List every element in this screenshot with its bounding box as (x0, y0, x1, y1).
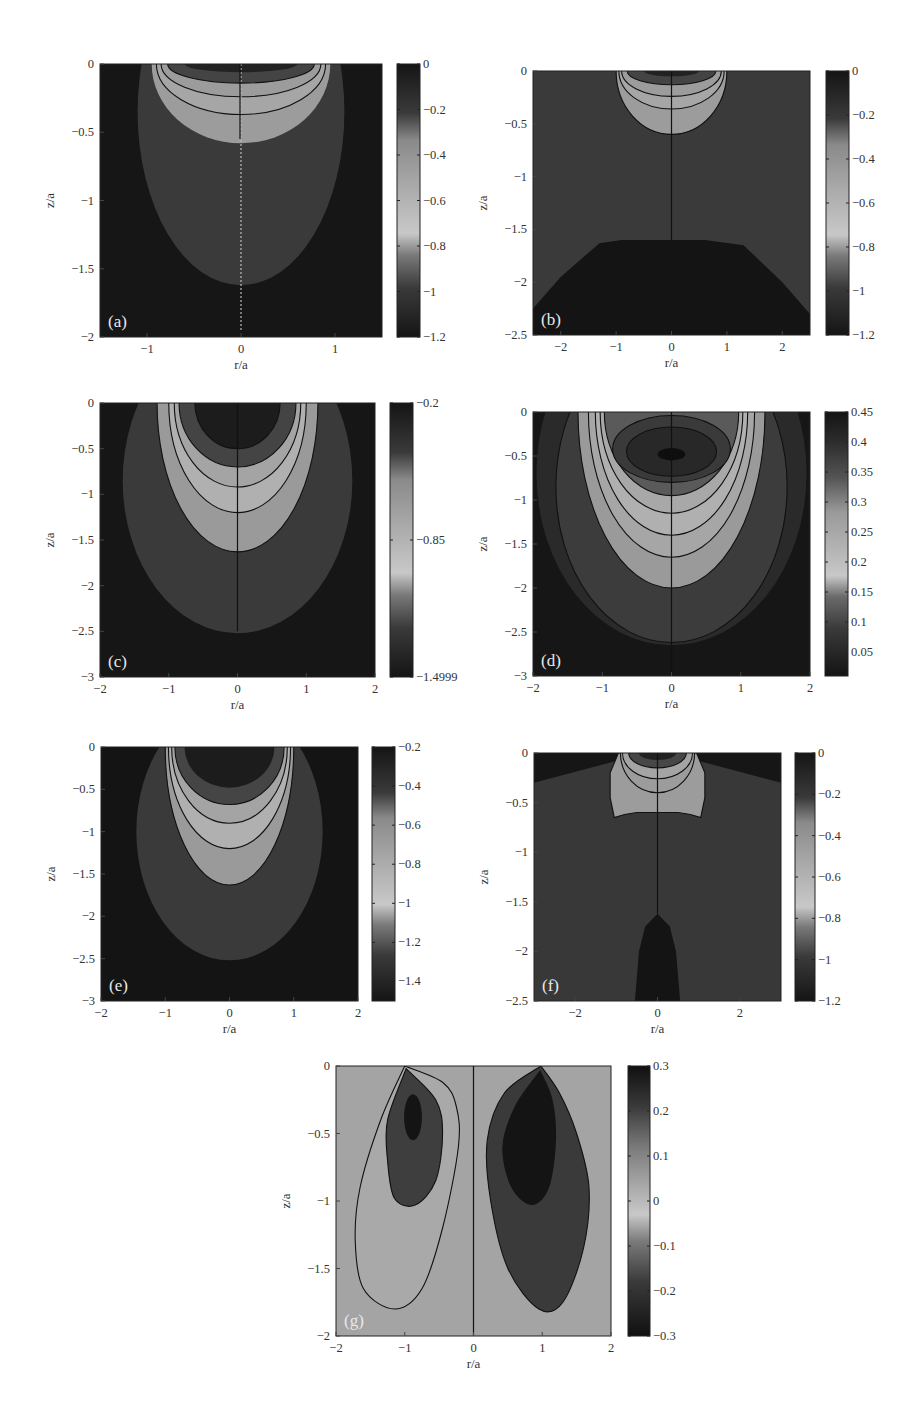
y-tick-label: −2 (514, 581, 527, 595)
colorbar-tick-label: 0.35 (851, 465, 873, 479)
colorbar-tick-label: 0.1 (653, 1149, 669, 1163)
y-tick-label: −1.5 (505, 895, 528, 909)
x-tick-label: −2 (329, 1341, 342, 1355)
colorbar-tick-label: −0.2 (653, 1284, 676, 1298)
x-tick-label: −1 (162, 682, 175, 696)
y-tick-label: 0 (89, 740, 95, 754)
colorbar-tick-label: −0.8 (423, 239, 446, 253)
y-tick-label: −2 (82, 909, 95, 923)
colorbar-tick-label: −0.8 (398, 857, 421, 871)
y-axis-label: z/a (42, 193, 57, 208)
x-axis-label: r/a (234, 357, 248, 372)
colorbar-e: −0.2−0.4−0.6−0.8−1−1.2−1.4 (372, 740, 421, 1001)
contour-area-a (100, 0, 382, 337)
contour-area-b (533, 8, 810, 335)
y-tick-label: 0 (88, 396, 94, 410)
y-tick-label: −2.5 (504, 625, 527, 639)
x-tick-label: 0 (668, 681, 674, 695)
x-tick-label: −2 (526, 681, 539, 695)
y-axis-label: z/a (278, 1193, 293, 1208)
colorbar-tick-label: 0.15 (851, 585, 873, 599)
colorbar-tick-label: 0 (852, 64, 858, 78)
x-tick-label: 2 (372, 682, 378, 696)
x-tick-label: −2 (554, 340, 567, 354)
contour-area-f (534, 713, 781, 1001)
x-tick-label: 0 (226, 1006, 232, 1020)
y-tick-label: −1.5 (504, 222, 527, 236)
panel-tag: (a) (108, 312, 127, 331)
y-tick-label: −1 (514, 170, 527, 184)
colorbar-d: 0.450.40.350.30.250.20.150.10.05 (825, 405, 873, 676)
x-axis-label: r/a (231, 697, 245, 712)
x-tick-label: 2 (355, 1006, 361, 1020)
colorbar-tick-label: −0.2 (398, 740, 421, 754)
colorbar-tick-label: −1 (818, 953, 831, 967)
colorbar-tick-label: 0.1 (851, 615, 867, 629)
y-tick-label: −1.5 (307, 1262, 330, 1276)
y-tick-label: −1 (317, 1194, 330, 1208)
colorbar-tick-label: −0.2 (423, 103, 446, 117)
panel-tag: (f) (542, 976, 559, 995)
colorbar-tick-label: −0.6 (423, 194, 446, 208)
x-tick-label: 1 (539, 1341, 545, 1355)
y-axis-label: z/a (476, 869, 491, 884)
y-tick-label: 0 (88, 57, 94, 71)
colorbar-tick-label: −1 (852, 284, 865, 298)
y-tick-label: −3 (81, 670, 94, 684)
y-tick-label: −2 (514, 275, 527, 289)
colorbar-tick-label: 0 (818, 746, 824, 760)
colorbar-tick-label: −1.4 (398, 974, 421, 988)
x-axis-label: r/a (651, 1021, 665, 1036)
y-tick-label: −2 (317, 1329, 330, 1343)
x-tick-label: 2 (779, 340, 785, 354)
y-tick-label: −2.5 (71, 624, 94, 638)
colorbar-b: 0−0.2−0.4−0.6−0.8−1−1.2 (826, 64, 875, 342)
colorbar-tick-label: −0.6 (398, 818, 421, 832)
colorbar-tick-label: 0.45 (851, 405, 873, 419)
y-tick-label: −2.5 (504, 328, 527, 342)
x-tick-label: −1 (609, 340, 622, 354)
y-tick-label: −1 (514, 493, 527, 507)
y-tick-label: −1 (81, 487, 94, 501)
x-tick-label: −2 (569, 1006, 582, 1020)
colorbar-tick-label: −1.4999 (416, 670, 457, 684)
x-tick-label: 0 (470, 1341, 476, 1355)
y-tick-label: −0.5 (72, 782, 95, 796)
colorbar-tick-label: −1.2 (852, 328, 875, 342)
colorbar-tick-label: 0 (423, 57, 429, 71)
x-tick-label: −2 (94, 1006, 107, 1020)
contour-figure: (a)−1010−0.5−1−1.5−2r/az/a0−0.2−0.4−0.6−… (0, 0, 913, 1420)
colorbar-f: 0−0.2−0.4−0.6−0.8−1−1.2 (795, 746, 841, 1008)
colorbar-tick-label: −1 (398, 896, 411, 910)
panel-b: (b)−2−10120−0.5−1−1.5−2−2.5r/az/a0−0.2−0… (475, 8, 875, 370)
x-axis-label: r/a (665, 355, 679, 370)
colorbar-tick-label: 0.3 (653, 1059, 669, 1073)
colorbar-tick-label: −0.1 (653, 1239, 676, 1253)
colorbar-g: 0.30.20.10−0.1−0.2−0.3 (628, 1059, 676, 1343)
colorbar-tick-label: 0.3 (851, 495, 867, 509)
y-tick-label: −1 (82, 825, 95, 839)
y-tick-label: 0 (522, 746, 528, 760)
x-tick-label: −1 (140, 342, 153, 356)
y-tick-label: −0.5 (504, 449, 527, 463)
y-tick-label: −1.5 (71, 533, 94, 547)
colorbar-c: −0.2−0.85−1.4999 (390, 396, 457, 684)
panel-tag: (d) (541, 651, 561, 670)
x-axis-label: r/a (223, 1021, 237, 1036)
panel-a: (a)−1010−0.5−1−1.5−2r/az/a0−0.2−0.4−0.6−… (42, 0, 446, 372)
panel-tag: (c) (108, 652, 127, 671)
panel-tag: (g) (344, 1311, 364, 1330)
colorbar-tick-label: −1.2 (818, 994, 841, 1008)
panel-tag: (e) (109, 976, 128, 995)
panel-tag: (b) (541, 310, 561, 329)
y-tick-label: −2 (515, 944, 528, 958)
colorbar-tick-label: −1 (423, 285, 436, 299)
colorbar-tick-label: −0.4 (818, 829, 841, 843)
colorbar-tick-label: −0.6 (818, 870, 841, 884)
colorbar-tick-label: −1.2 (398, 935, 421, 949)
x-tick-label: 2 (608, 1341, 614, 1355)
x-tick-label: 1 (303, 682, 309, 696)
colorbar-tick-label: 0 (653, 1194, 659, 1208)
y-tick-label: −1.5 (72, 867, 95, 881)
y-tick-label: −1.5 (504, 537, 527, 551)
